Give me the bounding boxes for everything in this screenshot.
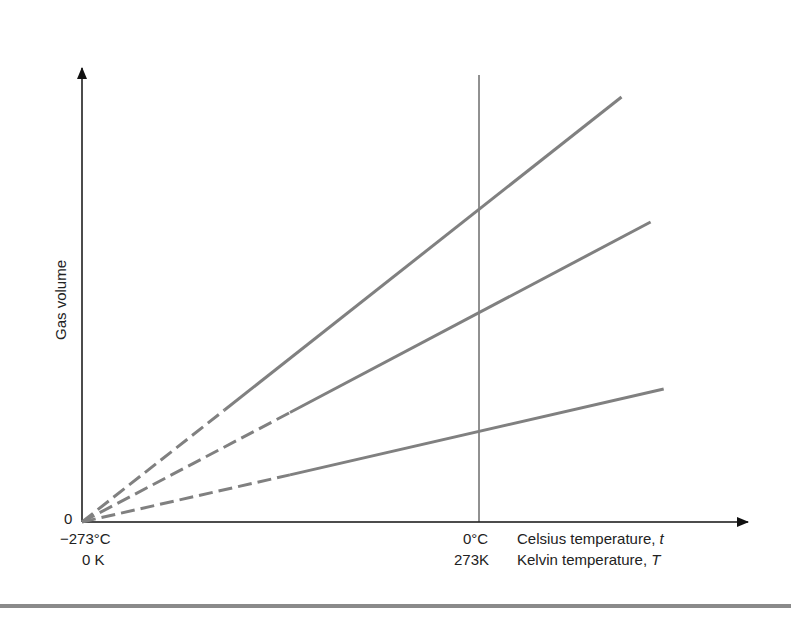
series-3-extrapolation: [82, 475, 290, 522]
bottom-divider: [0, 604, 791, 608]
x-tick-273k: 273K: [454, 552, 489, 567]
x-tick-0c: 0°C: [463, 531, 488, 546]
series-3-line: [290, 389, 664, 475]
y-tick-zero: 0: [64, 511, 72, 526]
series-group: [82, 97, 664, 522]
y-axis-label: Gas volume: [52, 260, 69, 340]
series-1-line: [225, 97, 622, 410]
series-2-extrapolation: [82, 413, 290, 522]
kelvin-axis-label: Kelvin temperature, T: [517, 552, 660, 567]
x-tick-0k: 0 K: [82, 552, 105, 567]
x-tick-minus273c: −273°C: [60, 531, 111, 546]
gas-volume-chart: [0, 0, 791, 618]
celsius-axis-label: Celsius temperature, t: [517, 531, 664, 546]
